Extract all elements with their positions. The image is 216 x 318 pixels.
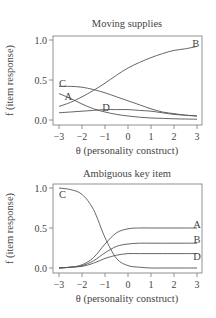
chart-title: Moving supplies xyxy=(92,18,162,29)
series-label-C: C xyxy=(59,78,66,89)
x-tick-label: −1 xyxy=(100,131,111,142)
x-tick-label: 2 xyxy=(172,131,177,142)
series-label-B: B xyxy=(193,234,200,245)
y-axis-label: f (item response) xyxy=(4,192,16,264)
series-line-B xyxy=(59,243,197,268)
x-tick-label: 1 xyxy=(149,279,154,290)
x-axis-label: θ (personality construct) xyxy=(76,293,179,305)
x-tick-label: −3 xyxy=(54,131,65,142)
x-tick-label: 0 xyxy=(126,279,131,290)
y-tick-label: 0.0 xyxy=(35,263,48,274)
series-line-A xyxy=(59,94,197,120)
series-label-D: D xyxy=(193,251,201,262)
series-label-A: A xyxy=(193,219,201,230)
x-tick-label: 1 xyxy=(149,131,154,142)
chart-title: Ambiguous key item xyxy=(83,168,171,179)
y-tick-label: 0.5 xyxy=(35,75,48,86)
y-tick-label: 1.0 xyxy=(35,35,48,46)
series-line-D xyxy=(59,110,197,116)
x-tick-label: −2 xyxy=(77,131,88,142)
series-label-C: C xyxy=(59,189,66,200)
series-line-B xyxy=(59,46,197,106)
figure: Moving supplies0.00.51.0−3−2−10123θ (per… xyxy=(0,0,216,318)
x-tick-label: −2 xyxy=(77,279,88,290)
y-axis-label: f (item response) xyxy=(4,44,16,116)
series-line-A xyxy=(59,228,197,268)
y-tick-label: 0.0 xyxy=(35,115,48,126)
x-tick-label: 0 xyxy=(126,131,131,142)
y-tick-label: 1.0 xyxy=(35,183,48,194)
series-label-D: D xyxy=(102,102,110,113)
x-tick-label: 3 xyxy=(195,131,200,142)
chart-panel-1: Moving supplies0.00.51.0−3−2−10123θ (per… xyxy=(4,18,202,157)
series-label-A: A xyxy=(64,91,72,102)
x-axis-label: θ (personality construct) xyxy=(76,145,179,157)
y-tick-label: 0.5 xyxy=(35,223,48,234)
x-tick-label: 3 xyxy=(195,279,200,290)
x-tick-label: −3 xyxy=(54,279,65,290)
series-label-B: B xyxy=(192,38,199,49)
x-tick-label: 2 xyxy=(172,279,177,290)
chart-panel-2: Ambiguous key item0.00.51.0−3−2−10123θ (… xyxy=(4,168,202,305)
x-tick-label: −1 xyxy=(100,279,111,290)
